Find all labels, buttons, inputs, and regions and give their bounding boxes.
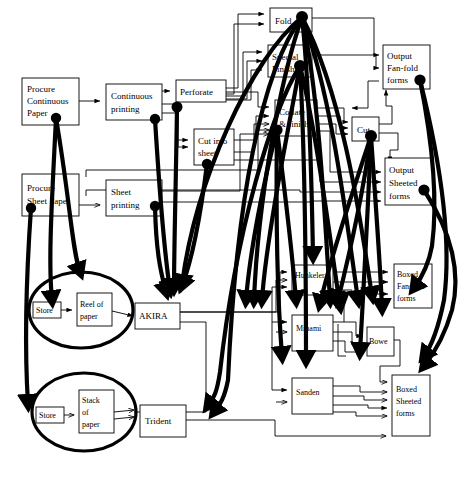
bold-edge-layer xyxy=(0,0,476,480)
bold-edges xyxy=(26,11,456,412)
diagram-canvas: Procure Continuous Paper Procure Sheet P… xyxy=(0,0,476,480)
